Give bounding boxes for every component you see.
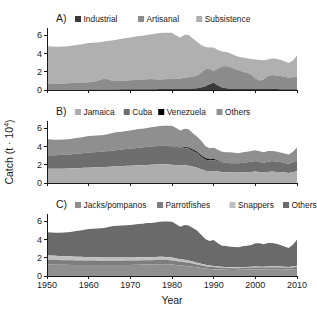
panel-label-c: C): [56, 198, 67, 210]
xtick-label: 1960: [79, 280, 99, 290]
ytick-label: 0: [37, 178, 42, 188]
panel-label-a: A): [56, 12, 67, 24]
legend-label-cuba: Cuba: [132, 107, 152, 117]
xtick-label: 2010: [287, 280, 307, 290]
legend-swatch-parrotfishes: [157, 202, 163, 208]
legend-swatch-venezuela: [158, 109, 164, 115]
legend-swatch-jamaica: [75, 109, 81, 115]
legend-swatch-others: [283, 202, 289, 208]
panel-c: 02461950196019701980199020002010C)Jacks/…: [37, 198, 317, 290]
xtick-label: 1950: [37, 280, 57, 290]
legend-label-subsistence: Subsistence: [205, 14, 251, 24]
y-axis-title: Catch (t · 104): [3, 119, 15, 184]
legend-label-others: Others: [292, 200, 317, 210]
figure-container: 0246A)IndustrialArtisanalSubsistence0246…: [0, 0, 317, 323]
ytick-label: 4: [37, 49, 42, 59]
ytick-label: 6: [37, 30, 42, 40]
legend-swatch-others: [217, 109, 223, 115]
legend-label-venezuela: Venezuela: [167, 107, 206, 117]
y-axis-title-close: ): [3, 119, 15, 123]
xtick-label: 2000: [245, 280, 265, 290]
legend-label-artisanal: Artisanal: [147, 14, 180, 24]
legend-swatch-subsistence: [196, 16, 202, 22]
legend-label-parrotfishes: Parrotfishes: [166, 200, 211, 210]
ytick-label: 6: [37, 216, 42, 226]
legend-label-snappers: Snappers: [238, 200, 274, 210]
legend-swatch-jacks-pompanos: [75, 202, 81, 208]
stacked-area-chart: 0246A)IndustrialArtisanalSubsistence0246…: [0, 0, 317, 323]
ytick-label: 2: [37, 67, 42, 77]
panel-a: 0246A)IndustrialArtisanalSubsistence: [37, 12, 297, 95]
xtick-label: 1970: [120, 280, 140, 290]
ytick-label: 4: [37, 235, 42, 245]
legend-label-industrial: Industrial: [84, 14, 118, 24]
legend-swatch-industrial: [75, 16, 81, 22]
panel-b: 0246B)JamaicaCubaVenezuelaOthers: [37, 105, 297, 188]
legend-swatch-artisanal: [138, 16, 144, 22]
legend-swatch-snappers: [230, 202, 236, 208]
ytick-label: 2: [37, 253, 42, 263]
ytick-label: 4: [37, 142, 42, 152]
legend-label-jamaica: Jamaica: [84, 107, 116, 117]
legend-label-others: Others: [225, 107, 250, 117]
legend-swatch-cuba: [124, 109, 130, 115]
y-axis-title-text: Catch (t · 104): [3, 119, 15, 184]
ytick-label: 0: [37, 85, 42, 95]
xtick-label: 1990: [204, 280, 224, 290]
ytick-label: 2: [37, 160, 42, 170]
area-band-subsistence: [47, 33, 297, 84]
ytick-label: 6: [37, 123, 42, 133]
x-axis-title: Year: [161, 294, 183, 306]
xtick-label: 1980: [162, 280, 182, 290]
panel-label-b: B): [56, 105, 67, 117]
legend-label-jacks-pompanos: Jacks/pompanos: [84, 200, 147, 210]
